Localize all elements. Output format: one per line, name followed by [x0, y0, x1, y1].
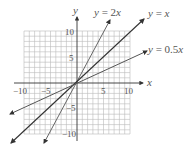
y-tick-10: 10 — [65, 27, 75, 37]
label-y-2x: y = 2x — [93, 6, 121, 18]
line-y-half-x — [10, 51, 147, 114]
label-y-half-x: y = 0.5x — [147, 43, 183, 55]
x-tick-neg5: −5 — [41, 86, 51, 96]
y-tick-5: 5 — [69, 53, 74, 63]
y-tick-neg10: −10 — [62, 129, 77, 139]
y-axis-label: y — [72, 4, 78, 16]
x-tick-5: 5 — [101, 86, 106, 96]
x-tick-10: 10 — [124, 86, 134, 96]
x-axis-label: x — [146, 76, 152, 88]
coordinate-plane: y x −10 −5 5 10 10 5 −5 −10 y = 2x y = x… — [0, 0, 191, 158]
y-tick-neg5: −5 — [66, 103, 76, 113]
label-y-x: y = x — [147, 7, 170, 19]
x-tick-neg10: −10 — [13, 86, 28, 96]
